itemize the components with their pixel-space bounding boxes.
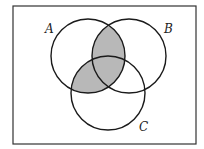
label-a: A: [44, 22, 54, 36]
label-b: B: [163, 22, 173, 36]
venn-diagram: A B C: [0, 0, 204, 149]
label-c: C: [139, 120, 148, 134]
